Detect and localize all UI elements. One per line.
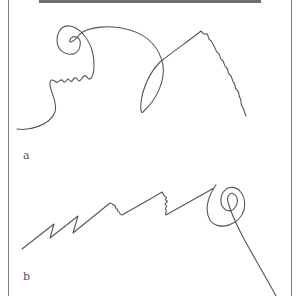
drawing-b — [22, 185, 276, 296]
drawings-canvas — [0, 0, 296, 296]
drawing-a — [17, 26, 246, 129]
panel-label-a: a — [23, 150, 30, 161]
panel-label-b: b — [23, 271, 30, 282]
